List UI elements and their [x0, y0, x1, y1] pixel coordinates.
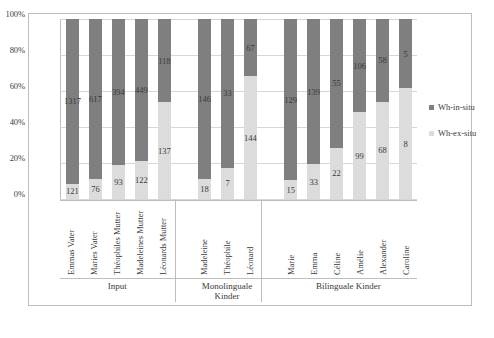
category-label-cell: Léonards Mutter [152, 201, 175, 278]
bar-slot[interactable]: 5868 [371, 19, 394, 199]
bar-segment-wh-in-situ[interactable]: 106 [353, 19, 366, 112]
bar-segment-wh-ex-situ[interactable]: 137 [158, 102, 171, 199]
bar-slot[interactable]: 1317121 [61, 19, 84, 199]
bar-slot[interactable]: 58 [394, 19, 417, 199]
category-label: Léonard [245, 247, 255, 275]
y-axis-labels: 100%80%60%40%20%0% [0, 14, 27, 194]
y-axis-tick-label: 60% [10, 81, 25, 91]
y-axis-tick-label: 0% [14, 189, 25, 199]
stacked-bar[interactable]: 337 [221, 19, 234, 199]
category-group: MadeleineThéophileLéonard [193, 201, 263, 278]
bar-segment-wh-in-situ[interactable]: 129 [284, 19, 297, 180]
category-label-cell: Maries Vater [83, 201, 106, 278]
bar-value-label: 1317 [64, 96, 81, 106]
bar-segment-wh-ex-situ[interactable]: 68 [376, 102, 389, 199]
bar-slot[interactable]: 13933 [302, 19, 325, 199]
bar-value-label: 617 [89, 94, 102, 104]
bar-segment-wh-ex-situ[interactable]: 93 [112, 165, 125, 199]
bar-value-label: 106 [353, 61, 366, 71]
stacked-bar[interactable]: 10699 [353, 19, 366, 199]
stacked-bar[interactable]: 67144 [244, 19, 257, 199]
bar-slot[interactable]: 14618 [193, 19, 216, 199]
group-label-text: Monolinguale Kinder [193, 281, 262, 301]
bar-segment-wh-ex-situ[interactable]: 121 [66, 184, 79, 199]
category-label: Madeleine [199, 239, 209, 275]
bar-segment-wh-ex-situ[interactable]: 7 [221, 168, 234, 200]
bar-segment-wh-in-situ[interactable]: 55 [330, 19, 343, 148]
bar-slot[interactable]: 61776 [84, 19, 107, 199]
group-spacer [176, 19, 193, 199]
legend-item[interactable]: Wh-in-situ [429, 102, 494, 112]
group-label-text: Input [108, 281, 127, 291]
bar-slot[interactable]: 39493 [107, 19, 130, 199]
group-spacer [262, 19, 279, 199]
category-label-cell: Emma [302, 201, 325, 278]
bar-value-label: 58 [378, 55, 387, 65]
stacked-bar[interactable]: 5522 [330, 19, 343, 199]
category-label: Alexander [378, 240, 388, 275]
bar-slot[interactable]: 12915 [279, 19, 302, 199]
bar-value-label: 68 [378, 145, 387, 155]
bar-slot[interactable]: 449122 [130, 19, 153, 199]
stacked-bar[interactable]: 449122 [135, 19, 148, 199]
bar-segment-wh-in-situ[interactable]: 118 [158, 19, 171, 102]
bar-segment-wh-in-situ[interactable]: 33 [221, 19, 234, 168]
category-label-cell: Léonard [239, 201, 262, 278]
bar-value-label: 5 [403, 49, 407, 59]
bar-slot[interactable]: 5522 [325, 19, 348, 199]
legend-label: Wh-ex-situ [438, 128, 476, 138]
category-label-cell: Théophile [216, 201, 239, 278]
category-label-cell: Céline [325, 201, 348, 278]
stacked-bar[interactable]: 39493 [112, 19, 125, 199]
bar-value-label: 18 [200, 184, 209, 194]
bar-value-label: 146 [198, 94, 211, 104]
bar-segment-wh-in-situ[interactable]: 394 [112, 19, 125, 165]
category-label: Madeleines Mutter [135, 211, 145, 275]
bar-segment-wh-ex-situ[interactable]: 99 [353, 112, 366, 199]
chart-root: 100%80%60%40%20%0% 131712161776394934491… [0, 0, 494, 338]
bar-segment-wh-in-situ[interactable]: 449 [135, 19, 148, 161]
bar-segment-wh-in-situ[interactable]: 58 [376, 19, 389, 102]
bar-segment-wh-ex-situ[interactable]: 18 [198, 179, 211, 199]
stacked-bar[interactable]: 1317121 [66, 19, 79, 199]
stacked-bar[interactable]: 14618 [198, 19, 211, 199]
bar-segment-wh-in-situ[interactable]: 67 [244, 19, 257, 76]
legend-item[interactable]: Wh-ex-situ [429, 128, 494, 138]
bar-value-label: 22 [332, 168, 341, 178]
bar-segment-wh-ex-situ[interactable]: 76 [89, 179, 102, 199]
bar-value-label: 144 [244, 133, 257, 143]
legend-swatch-icon [429, 105, 434, 110]
category-group: Emmas VaterMaries VaterThéophiles Mutter… [60, 201, 176, 278]
legend-label: Wh-in-situ [438, 102, 475, 112]
bar-slot[interactable]: 10699 [348, 19, 371, 199]
category-label: Amélie [355, 250, 365, 275]
stacked-bar[interactable]: 12915 [284, 19, 297, 199]
bar-segment-wh-in-situ[interactable]: 617 [89, 19, 102, 179]
group-label-spacer [262, 279, 279, 302]
bar-slot[interactable]: 118137 [153, 19, 176, 199]
bar-segment-wh-ex-situ[interactable]: 33 [307, 164, 320, 199]
category-label: Léonards Mutter [158, 218, 168, 275]
bar-segment-wh-in-situ[interactable]: 1317 [66, 19, 79, 184]
bar-segment-wh-ex-situ[interactable]: 8 [399, 88, 412, 199]
bar-segment-wh-ex-situ[interactable]: 22 [330, 148, 343, 199]
chart-frame: 100%80%60%40%20%0% 131712161776394934491… [28, 13, 472, 306]
bar-value-label: 7 [225, 178, 229, 188]
bar-segment-wh-ex-situ[interactable]: 15 [284, 180, 297, 199]
stacked-bar[interactable]: 58 [399, 19, 412, 199]
y-axis-tick-label: 20% [10, 153, 25, 163]
bar-value-label: 121 [66, 186, 79, 196]
bar-segment-wh-ex-situ[interactable]: 122 [135, 161, 148, 199]
bar-slot[interactable]: 337 [216, 19, 239, 199]
bar-segment-wh-in-situ[interactable]: 139 [307, 19, 320, 164]
bar-segment-wh-ex-situ[interactable]: 144 [244, 76, 257, 199]
stacked-bar[interactable]: 5868 [376, 19, 389, 199]
y-axis-tick-label: 40% [10, 117, 25, 127]
bar-segment-wh-in-situ[interactable]: 5 [399, 19, 412, 88]
stacked-bar[interactable]: 13933 [307, 19, 320, 199]
stacked-bar[interactable]: 61776 [89, 19, 102, 199]
stacked-bar[interactable]: 118137 [158, 19, 171, 199]
bar-value-label: 55 [332, 78, 341, 88]
bar-segment-wh-in-situ[interactable]: 146 [198, 19, 211, 179]
bar-slot[interactable]: 67144 [239, 19, 262, 199]
